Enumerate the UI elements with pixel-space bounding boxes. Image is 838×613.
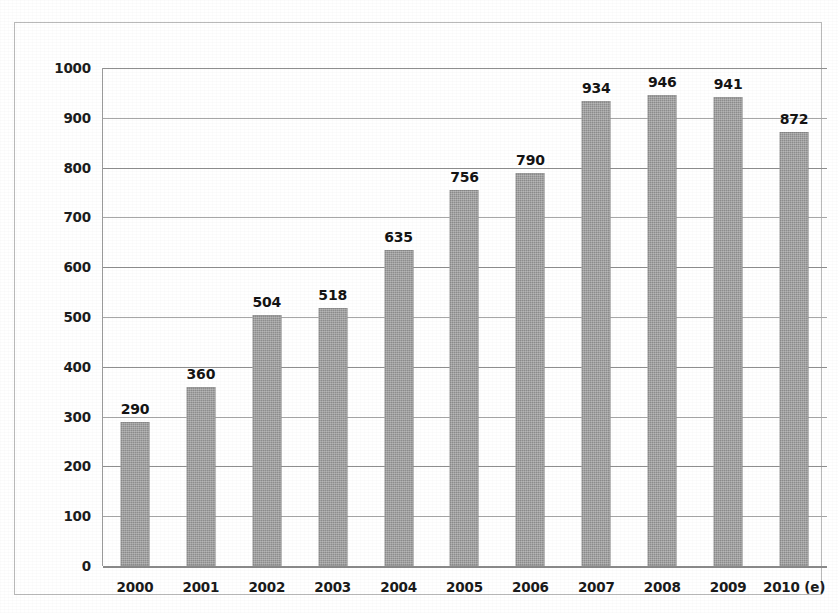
bar[interactable]: [318, 308, 347, 566]
y-tick-label: 800: [63, 160, 91, 176]
y-tick-label: 100: [63, 508, 91, 524]
x-tick-label: 2009: [710, 579, 747, 595]
bar-slot: 518: [300, 68, 366, 566]
bar-value-label: 790: [516, 152, 545, 168]
x-axis-tick-labels: 2000200120022003200420052006200720082009…: [102, 579, 827, 605]
bar[interactable]: [120, 422, 149, 566]
bar-slot: 872: [761, 68, 827, 566]
bar[interactable]: [714, 97, 743, 566]
x-tick-label: 2000: [117, 579, 154, 595]
x-tick-label: 2001: [182, 579, 219, 595]
bar-slot: 941: [695, 68, 761, 566]
x-tick-label: 2010 (e): [763, 579, 825, 595]
bar[interactable]: [780, 132, 809, 566]
bar-value-label: 360: [187, 366, 216, 382]
bar-value-label: 518: [318, 287, 347, 303]
x-tick-label: 2007: [578, 579, 615, 595]
x-tick-label: 2008: [644, 579, 681, 595]
bar-chart-figure: 10009008007006005004003002001000 2903605…: [0, 0, 838, 613]
bar-slot: 360: [168, 68, 234, 566]
bar-value-label: 635: [384, 229, 413, 245]
bar-value-label: 756: [450, 169, 479, 185]
bar-value-label: 504: [252, 294, 281, 310]
y-tick-label: 600: [63, 259, 91, 275]
bar[interactable]: [450, 190, 479, 566]
bar[interactable]: [384, 250, 413, 566]
bar-slot: 946: [629, 68, 695, 566]
bar-value-label: 941: [714, 76, 743, 92]
x-tick-label: 2002: [248, 579, 285, 595]
gridline-0: [103, 566, 827, 568]
bar-slot: 635: [366, 68, 432, 566]
bars-group: 290360504518635756790934946941872: [102, 68, 827, 566]
y-tick-label: 500: [63, 309, 91, 325]
y-tick-label: 0: [82, 558, 91, 574]
bar[interactable]: [186, 387, 215, 566]
bar[interactable]: [252, 315, 281, 566]
y-tick-label: 900: [63, 110, 91, 126]
y-tick-label: 400: [63, 359, 91, 375]
bar[interactable]: [516, 173, 545, 566]
x-tick-label: 2006: [512, 579, 549, 595]
y-tick-label: 200: [63, 458, 91, 474]
y-tick-label: 700: [63, 209, 91, 225]
bar-value-label: 872: [780, 111, 809, 127]
chart-outer-border: 10009008007006005004003002001000 2903605…: [14, 22, 822, 595]
bar-slot: 504: [234, 68, 300, 566]
bar-value-label: 946: [648, 74, 677, 90]
bar[interactable]: [648, 95, 677, 566]
bar-slot: 756: [432, 68, 498, 566]
x-tick-label: 2004: [380, 579, 417, 595]
bar[interactable]: [582, 101, 611, 566]
y-tick-label: 1000: [54, 60, 91, 76]
bar-slot: 790: [497, 68, 563, 566]
x-tick-label: 2003: [314, 579, 351, 595]
bar-slot: 934: [563, 68, 629, 566]
bar-value-label: 290: [121, 401, 150, 417]
bar-value-label: 934: [582, 80, 611, 96]
y-tick-label: 300: [63, 409, 91, 425]
bar-slot: 290: [102, 68, 168, 566]
x-tick-label: 2005: [446, 579, 483, 595]
